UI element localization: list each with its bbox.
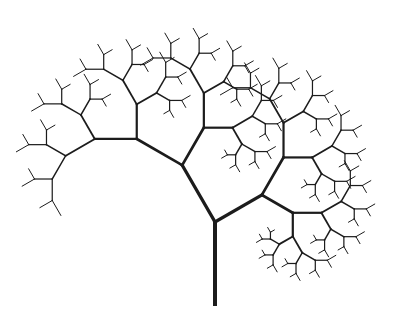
branch xyxy=(23,135,29,145)
branch xyxy=(314,235,317,240)
branch xyxy=(170,110,174,117)
branch xyxy=(132,45,140,50)
branch xyxy=(40,201,52,208)
branch xyxy=(193,28,199,38)
branch xyxy=(233,46,241,51)
branch xyxy=(102,94,110,99)
branch xyxy=(273,58,279,68)
branch xyxy=(232,116,252,127)
branch xyxy=(123,64,132,80)
branch xyxy=(344,247,348,254)
branch xyxy=(250,68,258,73)
branch xyxy=(277,124,281,131)
branch xyxy=(236,165,240,172)
branch xyxy=(350,166,358,171)
branch xyxy=(182,96,190,101)
branch xyxy=(325,91,333,96)
branch xyxy=(262,157,284,195)
branch xyxy=(270,239,279,244)
branch xyxy=(366,204,374,209)
branch xyxy=(310,270,316,273)
branch xyxy=(262,195,293,213)
branch xyxy=(303,111,316,119)
branch xyxy=(357,149,365,154)
branch xyxy=(242,144,255,152)
branch xyxy=(157,77,166,93)
branch xyxy=(344,161,350,171)
branch xyxy=(220,88,232,95)
branch xyxy=(327,260,331,267)
branch xyxy=(102,99,106,106)
branch xyxy=(257,239,263,242)
branch xyxy=(255,162,259,169)
branch xyxy=(227,78,233,88)
branch xyxy=(293,236,302,252)
branch xyxy=(357,154,361,161)
branch xyxy=(66,139,95,156)
branch xyxy=(164,110,170,113)
branch xyxy=(315,195,319,202)
branch xyxy=(81,115,95,139)
branch xyxy=(90,80,98,85)
branch xyxy=(290,273,296,276)
branch xyxy=(249,162,255,165)
branch xyxy=(316,129,320,136)
branch xyxy=(321,201,341,212)
branch xyxy=(157,93,170,101)
branch xyxy=(335,191,339,198)
branch xyxy=(227,41,233,51)
branch xyxy=(32,104,44,111)
branch xyxy=(301,185,307,188)
branch xyxy=(328,119,332,126)
branch xyxy=(270,83,279,99)
branch xyxy=(225,150,228,155)
branch xyxy=(322,174,335,182)
tree-branches xyxy=(16,28,374,304)
branch xyxy=(273,96,281,101)
branch xyxy=(16,145,28,152)
branch xyxy=(250,88,269,99)
branch xyxy=(279,64,287,69)
branch xyxy=(353,130,357,137)
branch xyxy=(259,255,265,258)
branch xyxy=(268,228,271,233)
branch xyxy=(302,253,315,261)
branch xyxy=(303,96,312,112)
branch xyxy=(267,152,271,159)
branch xyxy=(312,157,321,173)
branch xyxy=(315,174,321,185)
branch xyxy=(252,116,265,124)
branch xyxy=(321,213,330,229)
branch xyxy=(304,180,307,185)
branch xyxy=(349,219,355,222)
branch xyxy=(252,100,261,116)
branch xyxy=(262,250,265,255)
branch xyxy=(260,134,266,137)
branch xyxy=(249,89,253,96)
branch xyxy=(230,165,236,168)
branch xyxy=(46,145,65,156)
branch xyxy=(291,78,299,83)
fractal-tree-drawing xyxy=(0,0,394,331)
branch xyxy=(29,169,35,179)
branch xyxy=(80,59,86,69)
branch xyxy=(339,164,345,167)
branch xyxy=(362,186,366,193)
branch xyxy=(178,72,186,77)
branch xyxy=(182,165,215,222)
branch xyxy=(141,58,153,65)
branch xyxy=(160,52,166,62)
branch xyxy=(222,155,228,158)
branch xyxy=(291,83,295,90)
branch xyxy=(265,134,269,141)
branch xyxy=(182,128,204,166)
branch xyxy=(104,50,112,55)
branch xyxy=(329,191,335,194)
branch xyxy=(232,128,241,144)
branch xyxy=(279,236,292,244)
branch xyxy=(311,240,317,243)
branch xyxy=(260,234,263,239)
branch xyxy=(270,99,284,123)
branch xyxy=(81,99,90,115)
branch xyxy=(123,80,137,104)
